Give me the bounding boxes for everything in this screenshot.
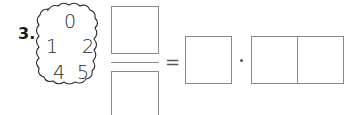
tens-digit-input-box[interactable]: [251, 36, 298, 84]
cloud-digit: 5: [77, 63, 89, 82]
equals-sign: =: [165, 53, 180, 71]
fraction-line: [111, 62, 159, 63]
exercise-number: 3.: [18, 24, 35, 43]
cloud-digit: 1: [46, 37, 58, 56]
result-input-box[interactable]: [185, 36, 232, 84]
ones-digit-input-box[interactable]: [297, 36, 344, 84]
cloud-digit: 4: [53, 63, 65, 82]
cloud-digit: 2: [82, 37, 94, 56]
denominator-input-box[interactable]: [111, 71, 159, 115]
multiply-dot: [240, 59, 243, 62]
cloud-digit: 0: [64, 12, 76, 31]
numerator-input-box[interactable]: [111, 6, 159, 54]
